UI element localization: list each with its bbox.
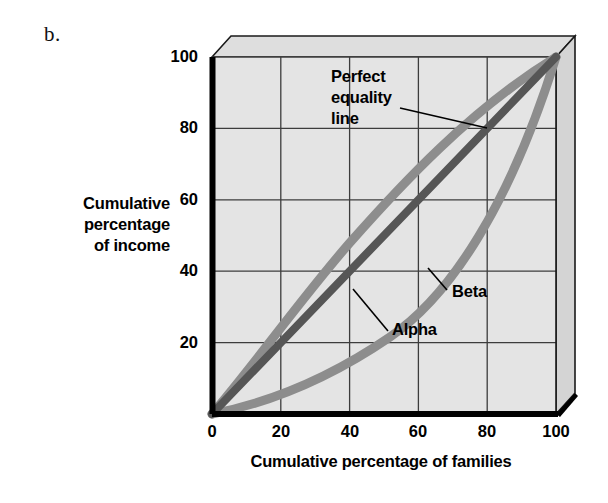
callout-alpha: Alpha xyxy=(392,319,437,340)
callout-perfect-equality-line: Perfect equality line xyxy=(331,66,392,129)
callout-equality-line-1: Perfect xyxy=(331,66,392,87)
callout-equality-line-3: line xyxy=(331,108,392,129)
plot-area xyxy=(0,0,608,503)
lorenz-curve-figure: b. Cumulative percentage of income Cumul… xyxy=(0,0,608,503)
plot-3d-right-face xyxy=(556,36,575,414)
plot-3d-top-face xyxy=(212,36,575,57)
callout-beta: Beta xyxy=(452,281,487,302)
callout-equality-line-2: equality xyxy=(331,87,392,108)
